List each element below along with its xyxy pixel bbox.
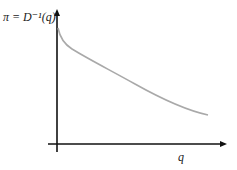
- demand-curve: [58, 28, 208, 115]
- x-axis-label: q: [178, 150, 184, 165]
- chart-canvas: [0, 0, 237, 170]
- x-axis-arrow-icon: [220, 141, 227, 147]
- x-axis: [48, 141, 227, 147]
- y-axis-label: π = D⁻¹(q): [3, 10, 56, 25]
